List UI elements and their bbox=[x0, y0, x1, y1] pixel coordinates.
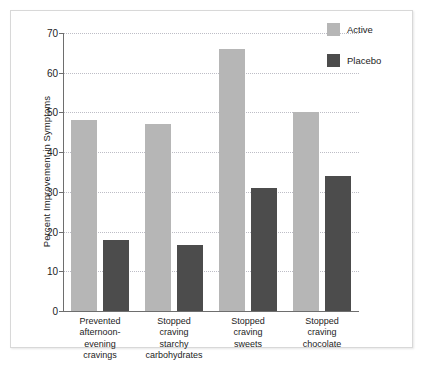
y-tick-mark bbox=[59, 73, 63, 74]
y-tick-label: 20 bbox=[47, 226, 58, 237]
legend-swatch-icon bbox=[327, 23, 340, 36]
legend-label: Placebo bbox=[347, 55, 381, 66]
legend-swatch-icon bbox=[327, 54, 340, 67]
y-axis-title: Percent Improvement in Symptoms bbox=[41, 52, 52, 292]
bar-placebo-1 bbox=[177, 245, 203, 311]
y-tick-label: 0 bbox=[52, 306, 58, 317]
y-tick-mark bbox=[59, 152, 63, 153]
bar-active-2 bbox=[219, 49, 245, 311]
gridline bbox=[64, 33, 359, 34]
y-tick-mark bbox=[59, 311, 63, 312]
chart-figure: Percent Improvement in Symptoms 01020304… bbox=[10, 10, 413, 348]
legend: ActivePlacebo bbox=[327, 23, 381, 85]
plot-area: 010203040506070 Prevented afternoon- eve… bbox=[63, 33, 359, 311]
legend-item-placebo[interactable]: Placebo bbox=[327, 54, 381, 67]
bar-active-0 bbox=[71, 120, 97, 311]
y-tick-label: 50 bbox=[47, 107, 58, 118]
legend-label: Active bbox=[347, 24, 373, 35]
y-tick-mark bbox=[59, 192, 63, 193]
y-tick-label: 60 bbox=[47, 67, 58, 78]
y-tick-mark bbox=[59, 271, 63, 272]
y-tick-label: 40 bbox=[47, 147, 58, 158]
x-axis-label-2: Stopped craving sweets bbox=[211, 316, 285, 350]
x-axis-line bbox=[63, 311, 359, 312]
x-axis-label-0: Prevented afternoon- evening cravings bbox=[63, 316, 137, 362]
y-tick-label: 70 bbox=[47, 28, 58, 39]
y-tick-label: 30 bbox=[47, 186, 58, 197]
x-axis-label-1: Stopped craving starchy carbohydrates bbox=[137, 316, 211, 362]
legend-item-active[interactable]: Active bbox=[327, 23, 381, 36]
bar-active-1 bbox=[145, 124, 171, 311]
y-tick-label: 10 bbox=[47, 266, 58, 277]
bar-placebo-3 bbox=[325, 176, 351, 311]
bar-active-3 bbox=[293, 112, 319, 311]
bar-placebo-2 bbox=[251, 188, 277, 311]
bar-placebo-0 bbox=[103, 240, 129, 311]
y-tick-mark bbox=[59, 112, 63, 113]
x-axis-label-3: Stopped craving chocolate bbox=[285, 316, 359, 350]
y-tick-mark bbox=[59, 232, 63, 233]
y-axis-line bbox=[63, 33, 64, 311]
gridline bbox=[64, 73, 359, 74]
y-tick-mark bbox=[59, 33, 63, 34]
